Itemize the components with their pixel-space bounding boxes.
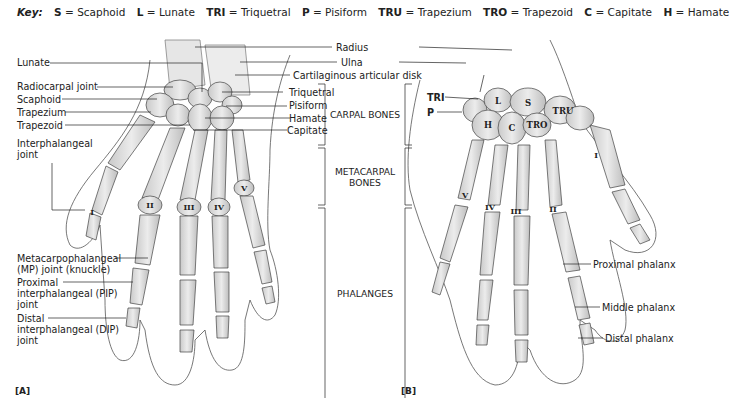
svg-text:TRO: TRO (527, 120, 548, 130)
label-middle-phalanx: Middle phalanx (602, 302, 675, 313)
svg-text:I: I (594, 150, 598, 160)
label-pip-joint: Proximal interphalangeal (PIP) joint (17, 277, 118, 310)
label-radius: Radius (336, 42, 368, 53)
label-phalanges: PHALANGES (328, 288, 402, 299)
svg-text:S: S (525, 98, 531, 108)
label-distal-phalanx: Distal phalanx (605, 333, 674, 344)
label-p: P (427, 107, 434, 118)
svg-text:III: III (183, 202, 194, 212)
label-scaphoid: Scaphoid (17, 94, 61, 105)
svg-text:IV: IV (214, 202, 225, 212)
hand-b-carpals (463, 88, 594, 144)
svg-text:H: H (484, 120, 492, 130)
figure-a-label: [A] (15, 386, 30, 396)
svg-text:III: III (510, 206, 521, 216)
svg-text:V: V (461, 190, 469, 200)
label-cartilaginous-disk: Cartilaginous articular disk (293, 70, 422, 81)
svg-text:II: II (549, 204, 557, 214)
label-hamate: Hamate (289, 113, 327, 124)
label-trapezium: Trapezium (17, 107, 66, 118)
label-carpal-bones: CARPAL BONES (328, 109, 402, 120)
label-lunate: Lunate (17, 57, 50, 68)
svg-text:TRU: TRU (553, 106, 574, 116)
label-mp-joint: Metacarpophalangeal (MP) joint (knuckle) (17, 253, 121, 275)
svg-text:V: V (240, 183, 248, 193)
svg-text:C: C (509, 123, 516, 133)
label-metacarpal-bones: METACARPAL BONES (328, 166, 402, 188)
label-proximal-phalanx: Proximal phalanx (593, 259, 676, 270)
svg-text:L: L (495, 96, 501, 106)
label-trapezoid: Trapezoid (17, 120, 63, 131)
svg-text:IV: IV (485, 202, 496, 212)
figure-b-label: [B] (401, 386, 416, 396)
svg-text:I: I (90, 207, 94, 217)
label-ulna: Ulna (341, 57, 363, 68)
label-radiocarpal-joint: Radiocarpal joint (17, 81, 98, 92)
label-dip-joint: Distal interphalangeal (DIP) joint (17, 313, 119, 346)
label-capitate: Capitate (287, 125, 328, 136)
hand-b-bones (432, 125, 650, 362)
label-triquetral: Triquetral (289, 87, 334, 98)
label-interphalangeal-joint: Interphalangeal joint (17, 138, 93, 160)
svg-text:II: II (146, 200, 154, 210)
label-tri: TRI (427, 92, 445, 103)
label-pisiform: Pisiform (289, 100, 327, 111)
